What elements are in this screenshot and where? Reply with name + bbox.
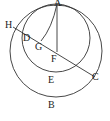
label-E: E	[48, 74, 54, 85]
label-C: C	[92, 71, 99, 82]
label-H: H	[5, 19, 12, 30]
label-F: F	[51, 53, 57, 64]
label-G: G	[35, 41, 42, 52]
label-A: A	[54, 0, 62, 8]
outer-circle	[10, 5, 102, 97]
geometry-diagram: A H D G F E C B	[0, 0, 110, 121]
label-D: D	[23, 32, 30, 43]
curve-AG	[41, 4, 57, 41]
label-B: B	[48, 99, 55, 110]
